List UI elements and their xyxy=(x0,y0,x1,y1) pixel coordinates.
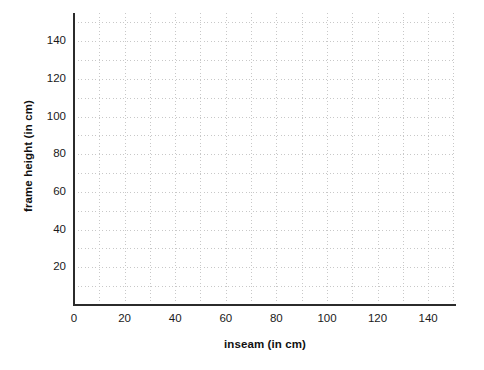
chart-figure: 020406080100120140 20406080100120140 ins… xyxy=(0,0,484,370)
x-tick-label: 60 xyxy=(219,313,232,325)
x-tick-label: 120 xyxy=(368,313,387,325)
grid-lines xyxy=(74,13,456,305)
x-tick-label: 0 xyxy=(71,313,77,325)
plot-area xyxy=(74,13,456,305)
x-tick-label: 20 xyxy=(118,313,131,325)
y-axis-spine xyxy=(73,13,75,306)
x-tick-label: 100 xyxy=(317,313,336,325)
x-tick-label: 80 xyxy=(270,313,283,325)
y-tick-label: 20 xyxy=(0,262,66,274)
y-axis-title: frame height (in cm) xyxy=(22,56,34,256)
x-axis-spine xyxy=(73,304,456,306)
x-tick-label: 140 xyxy=(419,313,438,325)
x-axis-title: inseam (in cm) xyxy=(74,338,456,350)
y-tick-label: 140 xyxy=(0,36,66,48)
x-tick-label: 40 xyxy=(169,313,182,325)
